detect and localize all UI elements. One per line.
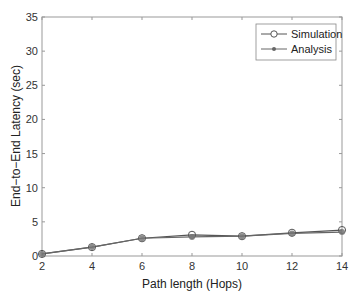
- analysis-point: [39, 251, 45, 257]
- x-tick-label: 2: [39, 260, 45, 272]
- legend-circle-icon: [271, 31, 277, 37]
- analysis-point: [189, 234, 195, 240]
- x-tick-label: 14: [336, 260, 348, 272]
- analysis-point: [289, 230, 295, 236]
- analysis-point: [139, 235, 145, 241]
- legend-analysis-label: Analysis: [291, 43, 332, 55]
- y-tick-label: 20: [26, 113, 38, 125]
- x-tick-label: 12: [286, 260, 298, 272]
- y-tick-label: 5: [32, 216, 38, 228]
- analysis-point: [339, 229, 345, 235]
- y-tick-label: 10: [26, 182, 38, 194]
- x-axis-label: Path length (Hops): [142, 277, 242, 291]
- latency-chart: 05101520253035 2468101214 Path length (H…: [0, 0, 358, 302]
- legend-simulation-label: Simulation: [291, 28, 342, 40]
- y-tick-label: 0: [32, 250, 38, 262]
- x-tick-label: 10: [236, 260, 248, 272]
- y-tick-label: 15: [26, 148, 38, 160]
- y-tick-label: 25: [26, 79, 38, 91]
- y-tick-label: 35: [26, 11, 38, 23]
- x-tick-label: 4: [89, 260, 95, 272]
- x-tick-label: 6: [139, 260, 145, 272]
- x-tick-label: 8: [189, 260, 195, 272]
- y-tick-label: 30: [26, 45, 38, 57]
- legend-star-icon: [272, 47, 276, 51]
- y-axis-label: End−to−End Latency (sec): [9, 65, 23, 207]
- legend: Simulation Analysis: [256, 24, 342, 60]
- analysis-point: [239, 233, 245, 239]
- analysis-point: [89, 244, 95, 250]
